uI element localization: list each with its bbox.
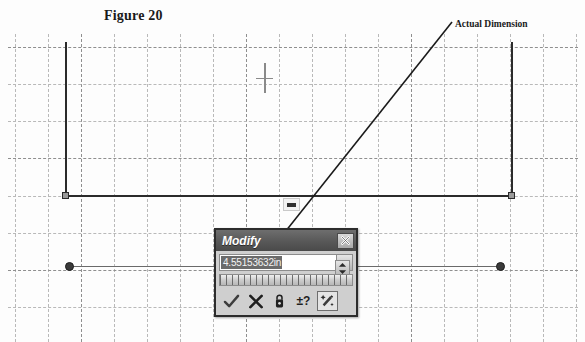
dimension-handle-left[interactable]: [65, 262, 74, 271]
figure-title: Figure 20: [104, 8, 163, 24]
ruler-ticks: [220, 275, 352, 285]
sketch-corner-bottom-left[interactable]: [62, 192, 69, 199]
cancel-button[interactable]: [245, 291, 266, 311]
sketch-corner-bottom-right[interactable]: [508, 192, 515, 199]
tolerance-button[interactable]: ±?: [293, 291, 314, 311]
dimension-value-input[interactable]: 4.55153632in: [220, 255, 336, 270]
dimension-handle-right[interactable]: [496, 262, 505, 271]
sketch-edge-left[interactable]: [65, 42, 67, 197]
dimension-value-row: 4.55153632in: [219, 254, 353, 271]
sketch-edge-right[interactable]: [511, 42, 513, 197]
vertical-dimension-arrow: [256, 78, 273, 79]
tolerance-button-label: ±?: [297, 295, 311, 307]
modify-dialog-toolbar: ±?: [219, 290, 353, 312]
dimension-value-placeholder[interactable]: [283, 198, 300, 211]
lock-button[interactable]: [269, 291, 290, 311]
modify-dialog-titlebar[interactable]: Modify: [216, 230, 356, 251]
measure-button[interactable]: [317, 291, 338, 311]
modify-dialog-body: 4.55153632in: [216, 251, 356, 315]
dimension-value-text: 4.55153632in: [221, 256, 282, 269]
modify-dialog[interactable]: Modify 4.55153632in: [214, 228, 358, 317]
sketch-edge-bottom[interactable]: [65, 195, 512, 197]
close-icon[interactable]: [337, 233, 354, 249]
figure-page: Figure 20 Actual Dimension Modify 4.5515…: [0, 0, 585, 342]
modify-dialog-title: Modify: [222, 235, 261, 247]
accept-button[interactable]: [221, 291, 242, 311]
callout-label-actual-dimension: Actual Dimension: [455, 19, 528, 29]
dimension-ruler[interactable]: [219, 274, 353, 286]
